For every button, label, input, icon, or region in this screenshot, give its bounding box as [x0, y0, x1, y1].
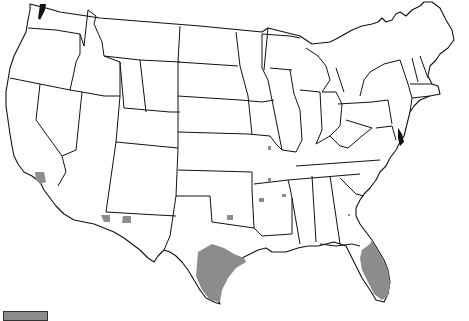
shaded-arkansas-2: [282, 194, 286, 197]
shaded-florida: [360, 240, 390, 300]
shaded-arizona-2: [122, 216, 131, 223]
shaded-missouri: [268, 146, 271, 150]
shaded-southern-california: [35, 172, 46, 184]
shaded-north-texas: [227, 215, 233, 220]
shaded-missouri-2: [268, 178, 271, 182]
shaded-georgia: [348, 214, 350, 216]
shaded-arkansas: [259, 198, 264, 202]
legend-swatch: [3, 311, 48, 321]
